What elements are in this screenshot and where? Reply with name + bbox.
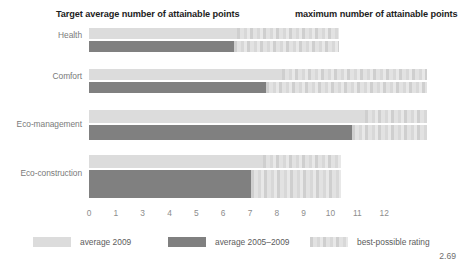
x-axis-tick-label: 12 [379,208,388,218]
chart-legend: average 2009average 2005–2009best-possib… [33,236,433,250]
category-label: Eco-construction [20,168,82,178]
x-axis-tick-label: 3 [140,208,145,218]
bar-segment-best-possible[interactable] [251,170,341,198]
chart-title-left: Target average number of attainable poin… [56,9,240,19]
legend-swatch [33,237,71,247]
legend-item[interactable]: average 2005–2009 [168,236,290,247]
x-axis-tick-label: 6 [221,208,226,218]
bar-row[interactable] [89,125,411,140]
x-axis-tick-label: 7 [248,208,253,218]
bar-row[interactable] [89,155,411,168]
bar-row[interactable] [89,110,411,123]
legend-label: best-possible rating [357,237,430,247]
legend-item[interactable]: average 2009 [33,236,131,247]
bar-row[interactable] [89,41,411,52]
bar-segment-value[interactable] [89,82,266,93]
x-axis-tick-label: 8 [274,208,279,218]
x-axis-tick-label: 11 [353,208,362,218]
bar-segment-best-possible[interactable] [266,82,427,93]
x-axis-tick-label: 5 [194,208,199,218]
x-axis: 013456789101112 [89,208,411,222]
bar-row[interactable] [89,170,411,198]
legend-swatch [310,237,348,247]
x-axis-tick-label: 9 [301,208,306,218]
bar-segment-best-possible[interactable] [352,125,427,140]
bar-segment-best-possible[interactable] [237,28,339,39]
bar-segment-value[interactable] [89,41,234,52]
bar-segment-best-possible[interactable] [282,69,427,80]
plot-area: HealthComfortEco-managementEco-construct… [89,28,411,203]
category-label: Comfort [53,71,82,81]
x-axis-tick-label: 4 [167,208,172,218]
bar-segment-value[interactable] [89,28,237,39]
bar-segment-value[interactable] [89,125,352,140]
bar-row[interactable] [89,69,411,80]
bar-row[interactable] [89,82,411,93]
legend-label: average 2005–2009 [215,237,290,247]
legend-swatch [168,237,206,247]
bar-segment-best-possible[interactable] [263,155,341,168]
legend-item[interactable]: best-possible rating [310,236,430,247]
category-label: Health [58,30,82,40]
bar-row[interactable] [89,28,411,39]
chart-title-right: maximum number of attainable points [295,9,457,19]
bar-segment-best-possible[interactable] [234,41,339,52]
bar-segment-value[interactable] [89,170,251,198]
x-axis-tick-label: 10 [326,208,335,218]
category-label: Eco-management [17,119,82,129]
x-axis-tick-label: 0 [87,208,92,218]
chart-root: Target average number of attainable poin… [0,0,463,267]
bar-segment-best-possible[interactable] [365,110,427,123]
legend-label: average 2009 [80,237,131,247]
bar-segment-value[interactable] [89,155,263,168]
x-axis-tick-label: 1 [113,208,118,218]
bar-segment-value[interactable] [89,110,365,123]
bar-segment-value[interactable] [89,69,282,80]
corner-number: 2.69 [439,251,456,261]
